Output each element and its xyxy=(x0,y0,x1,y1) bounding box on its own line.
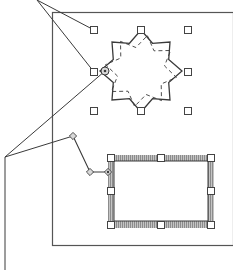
selection-handle[interactable] xyxy=(158,222,165,229)
selection-handle[interactable] xyxy=(185,108,192,115)
center-knob-dot xyxy=(104,70,107,73)
selection-handle[interactable] xyxy=(108,155,115,162)
selection-handle[interactable] xyxy=(208,188,215,195)
callout-line xyxy=(37,0,94,30)
selection-handle[interactable] xyxy=(185,27,192,34)
connector-polyline[interactable] xyxy=(69,132,111,175)
polyline-path[interactable] xyxy=(73,136,108,172)
rotation-center-knob[interactable] xyxy=(101,67,109,75)
callout-lines xyxy=(5,0,105,270)
selection-handle[interactable] xyxy=(138,108,145,115)
vertex-dot xyxy=(107,171,109,173)
selection-handle[interactable] xyxy=(108,188,115,195)
selection-handle[interactable] xyxy=(208,222,215,229)
vertex-diamond-icon[interactable] xyxy=(86,168,93,175)
selection-handle[interactable] xyxy=(108,222,115,229)
selection-handle[interactable] xyxy=(138,27,145,34)
selection-handle[interactable] xyxy=(91,108,98,115)
selection-handle[interactable] xyxy=(91,69,98,76)
selection-handle[interactable] xyxy=(91,27,98,34)
selection-handle[interactable] xyxy=(208,155,215,162)
vertex-diamond-icon[interactable] xyxy=(69,132,76,139)
rectangle-shape[interactable] xyxy=(108,155,214,228)
selection-handle[interactable] xyxy=(185,69,192,76)
callout-line xyxy=(5,136,73,157)
rectangle-interior[interactable] xyxy=(114,161,208,221)
callout-line xyxy=(37,0,94,72)
selection-handle[interactable] xyxy=(158,155,165,162)
drawing-diagram xyxy=(0,0,233,270)
